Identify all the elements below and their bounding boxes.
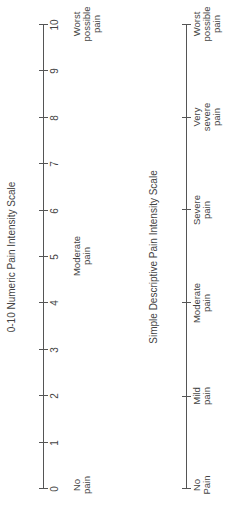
tick xyxy=(182,209,191,210)
label-worst-possible-pain: Worst possible pain xyxy=(192,7,222,42)
label-no-pain: No Pain xyxy=(192,475,212,494)
tick xyxy=(39,163,48,164)
anchor-worst-possible-pain: Worst possible pain xyxy=(72,7,102,42)
tick-label-2: 2 xyxy=(49,393,60,399)
label-mild-pain: Mild pain xyxy=(192,387,212,405)
tick-label-7: 7 xyxy=(49,161,60,167)
tick xyxy=(39,24,48,25)
descriptive-scale-axis xyxy=(186,25,187,489)
tick xyxy=(39,256,48,257)
tick xyxy=(39,395,48,396)
anchor-moderate-pain: Moderate pain xyxy=(72,236,92,276)
tick xyxy=(182,24,191,25)
label-very-severe-pain: Very severe pain xyxy=(192,103,222,132)
tick xyxy=(39,442,48,443)
anchor-no-pain: No pain xyxy=(72,476,92,494)
numeric-scale-axis xyxy=(43,25,44,489)
tick xyxy=(39,117,48,118)
tick xyxy=(39,70,48,71)
tick-label-3: 3 xyxy=(49,347,60,353)
tick-label-9: 9 xyxy=(49,68,60,74)
tick xyxy=(182,302,191,303)
label-severe-pain: Severe pain xyxy=(192,195,212,225)
tick xyxy=(39,349,48,350)
descriptive-scale-title: Simple Descriptive Pain Intensity Scale xyxy=(148,170,159,343)
tick-label-10: 10 xyxy=(49,19,60,30)
tick-label-1: 1 xyxy=(49,440,60,446)
tick-label-4: 4 xyxy=(49,300,60,306)
tick xyxy=(182,488,191,489)
numeric-scale-title: 0-10 Numeric Pain Intensity Scale xyxy=(6,182,17,333)
tick-label-5: 5 xyxy=(49,254,60,260)
label-moderate-pain: Moderate pain xyxy=(192,283,212,323)
tick xyxy=(39,210,48,211)
tick xyxy=(39,302,48,303)
tick-label-0: 0 xyxy=(49,486,60,492)
tick xyxy=(182,117,191,118)
tick xyxy=(182,396,191,397)
pain-scales-figure: 0-10 Numeric Pain Intensity Scale 0 1 2 … xyxy=(0,0,235,518)
tick-label-6: 6 xyxy=(49,208,60,214)
tick-label-8: 8 xyxy=(49,115,60,121)
tick xyxy=(39,488,48,489)
